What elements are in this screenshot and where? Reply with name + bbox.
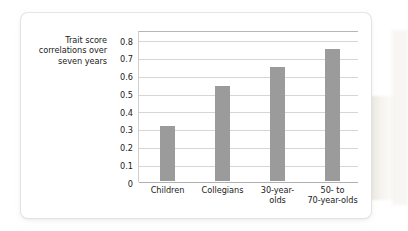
y-tick-label: 0.3 — [107, 125, 133, 135]
y-tick-label: 0.1 — [107, 161, 133, 171]
y-tick-label: 0.8 — [107, 37, 133, 47]
y-tick-label: 0.5 — [107, 90, 133, 100]
y-axis-label-line-1: Trait score — [17, 35, 107, 45]
y-tick-label: 0.4 — [107, 108, 133, 118]
y-tick-label: 0.2 — [107, 143, 133, 153]
figure-card: Trait score correlations over seven year… — [21, 13, 371, 218]
page-edge-artifact-strip — [368, 96, 394, 200]
x-axis-labels: Children Collegians 30-year- olds 50- to… — [138, 184, 358, 216]
bar-collegians[interactable] — [215, 86, 230, 181]
y-tick-label: 0.7 — [107, 54, 133, 64]
page-edge-artifact-strip-outer — [392, 30, 408, 205]
bar-chart: Trait score correlations over seven year… — [21, 13, 371, 218]
y-tick-label: 0.6 — [107, 72, 133, 82]
y-tick-label: 0 — [107, 179, 133, 189]
y-axis-label: Trait score correlations over seven year… — [17, 35, 107, 66]
bar-children[interactable] — [160, 126, 175, 181]
y-axis-label-line-2: correlations over — [17, 45, 107, 55]
bars-group — [138, 31, 358, 182]
x-label-50-to-70-year-olds: 50- to 70-year-olds — [301, 186, 365, 205]
x-label-line: 70-year-olds — [301, 196, 365, 206]
y-axis-label-line-3: seven years — [17, 56, 107, 66]
bar-30-year-olds[interactable] — [270, 67, 285, 181]
bar-50-to-70-year-olds[interactable] — [325, 49, 340, 181]
